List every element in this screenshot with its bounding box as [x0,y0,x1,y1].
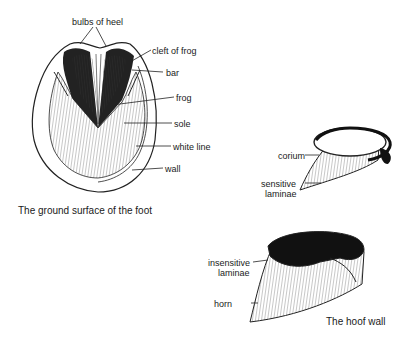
label-sole: sole [174,119,191,129]
label-insensitive-laminae-1: insensitive [208,258,250,268]
label-white-line: white line [173,142,211,152]
label-sensitive-laminae-2: laminae [265,189,297,199]
label-wall: wall [165,164,181,174]
label-corium: corium [278,151,305,161]
caption-hoof-wall: The hoof wall [326,316,385,327]
label-bulbs-of-heel: bulbs of heel [72,17,123,27]
hoof-diagram-art [0,0,419,341]
caption-ground-surface: The ground surface of the foot [18,205,152,216]
label-insensitive-laminae-2: laminae [218,268,250,278]
hoof-wall-horn-drawing [250,232,364,322]
hoof-wall-corium-drawing [300,128,391,190]
label-frog: frog [176,93,192,103]
label-sensitive-laminae-1: sensitive [261,179,296,189]
label-horn: horn [214,299,232,309]
label-bar: bar [166,68,179,78]
label-cleft-of-frog: cleft of frog [152,46,197,56]
